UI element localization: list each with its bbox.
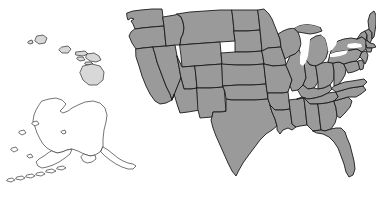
state-colorado[interactable] — [195, 64, 224, 88]
us-map-svg — [0, 0, 376, 198]
state-kansas[interactable] — [222, 64, 266, 86]
hawaii-island-kauai — [35, 35, 47, 44]
us-map-container — [0, 0, 376, 198]
state-oregon[interactable] — [129, 26, 166, 49]
state-oklahoma[interactable] — [223, 84, 268, 100]
state-montana[interactable] — [177, 10, 235, 45]
state-nebraska[interactable] — [221, 51, 264, 65]
state-south-dakota[interactable] — [234, 30, 262, 52]
state-wyoming[interactable] — [180, 42, 222, 67]
state-north-dakota[interactable] — [232, 10, 260, 31]
